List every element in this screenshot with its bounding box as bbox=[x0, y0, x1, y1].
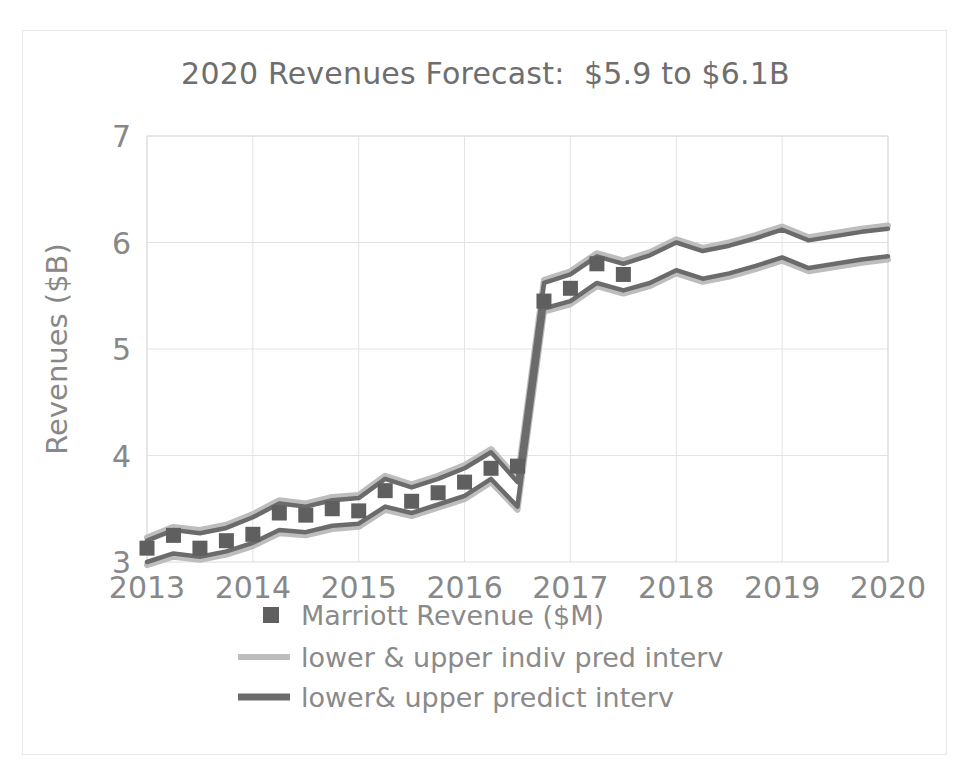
data-point-marker bbox=[563, 281, 578, 296]
legend-label: lower & upper indiv pred interv bbox=[301, 642, 723, 673]
x-tick-label: 2020 bbox=[850, 570, 926, 605]
series-line bbox=[147, 260, 888, 566]
data-point-marker bbox=[484, 461, 499, 476]
data-point-marker bbox=[404, 494, 419, 509]
y-tick-label: 7 bbox=[112, 119, 131, 154]
data-point-marker bbox=[298, 508, 313, 523]
data-point-marker bbox=[272, 506, 287, 521]
chart-plot: 34567 20132014201520162017201820192020 R… bbox=[23, 31, 948, 756]
data-point-marker bbox=[219, 533, 234, 548]
legend-marker-square bbox=[263, 607, 279, 623]
y-axis-ticks: 34567 bbox=[112, 119, 131, 580]
chart-container: 2020 Revenues Forecast: $5.9 to $6.1B 34… bbox=[22, 30, 947, 755]
chart-legend: Marriott Revenue ($M)lower & upper indiv… bbox=[238, 600, 723, 713]
y-tick-label: 4 bbox=[112, 439, 131, 474]
data-point-marker bbox=[378, 483, 393, 498]
data-point-marker bbox=[140, 541, 155, 556]
data-point-marker bbox=[351, 503, 366, 518]
data-point-marker bbox=[536, 294, 551, 309]
x-tick-label: 2018 bbox=[638, 570, 714, 605]
y-tick-label: 6 bbox=[112, 226, 131, 261]
data-point-marker bbox=[510, 459, 525, 474]
data-point-marker bbox=[457, 475, 472, 490]
data-point-marker bbox=[589, 256, 604, 271]
x-tick-label: 2013 bbox=[109, 570, 185, 605]
x-tick-label: 2014 bbox=[215, 570, 291, 605]
data-point-marker bbox=[325, 501, 340, 516]
y-axis-title: Revenues ($B) bbox=[40, 243, 74, 455]
data-point-marker bbox=[166, 528, 181, 543]
data-point-marker bbox=[616, 267, 631, 282]
x-tick-label: 2019 bbox=[744, 570, 820, 605]
data-series-group bbox=[147, 225, 888, 565]
legend-label: Marriott Revenue ($M) bbox=[301, 600, 604, 631]
data-point-marker bbox=[431, 485, 446, 500]
data-point-marker bbox=[192, 541, 207, 556]
legend-label: lower& upper predict interv bbox=[301, 682, 674, 713]
y-tick-label: 5 bbox=[112, 332, 131, 367]
data-point-marker bbox=[245, 527, 260, 542]
